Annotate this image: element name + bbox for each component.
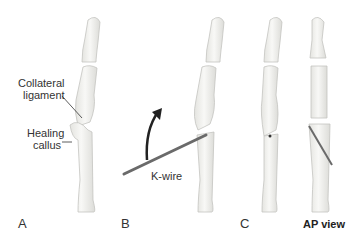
finger-b — [194, 17, 224, 212]
panel-label-ap-view: AP view — [303, 218, 345, 230]
illustration — [0, 0, 362, 238]
collateral-ligament-label: Collateral ligament — [18, 77, 65, 101]
finger-ap — [309, 17, 330, 212]
rotation-arrow — [147, 112, 158, 160]
healing-callus-label: Healing callus — [27, 127, 64, 151]
k-wire-label: K-wire — [151, 170, 182, 182]
finger-a — [70, 17, 100, 212]
finger-c — [261, 17, 282, 212]
panel-label-a: A — [18, 216, 27, 231]
panel-label-b: B — [121, 216, 130, 231]
k-wire — [124, 135, 206, 174]
panel-label-c: C — [240, 216, 249, 231]
